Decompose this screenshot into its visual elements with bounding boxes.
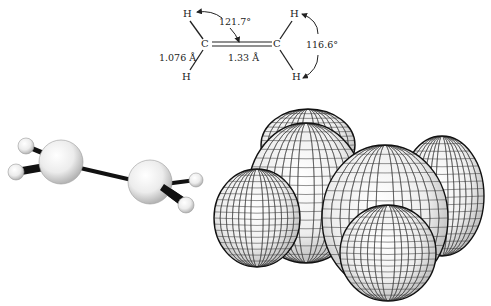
ethylene-diagram: H C H C H H 121.7° 116.6° 1.076 Å 1.33 Å [0,0,491,306]
sphere-h-front-left [214,169,300,267]
sphere-h-front-bottom [340,205,436,301]
space-filling-model [0,0,491,306]
